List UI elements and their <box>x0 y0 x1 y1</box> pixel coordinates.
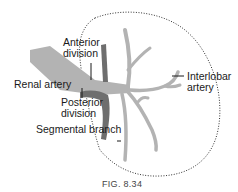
label-interlobar-artery-2: artery <box>187 82 214 93</box>
figure-caption: FIG. 8.34 <box>102 179 142 189</box>
label-posterior-division-2: division <box>61 108 96 119</box>
renal-artery-diagram <box>0 0 238 192</box>
label-renal-artery: Renal artery <box>14 79 71 90</box>
label-anterior-division-2: division <box>63 48 98 59</box>
label-segmental-branch: Segmental branch <box>36 124 121 135</box>
lower-branch <box>128 92 156 150</box>
anterior-branch <box>101 44 108 82</box>
upper-branch <box>125 30 129 86</box>
